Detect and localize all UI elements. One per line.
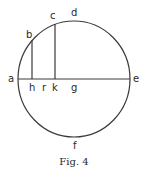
label-f: f [73, 140, 77, 151]
label-d: d [71, 7, 77, 18]
figure-4-diagram: a b c d e h r k g f Fig. 4 [0, 0, 144, 175]
label-h: h [29, 82, 35, 93]
label-g: g [71, 82, 77, 93]
label-b: b [26, 29, 32, 40]
label-k: k [52, 82, 58, 93]
figure-caption: Fig. 4 [59, 156, 88, 167]
label-r: r [42, 82, 47, 93]
label-e: e [133, 73, 139, 84]
label-c: c [50, 10, 56, 21]
label-a: a [8, 73, 14, 84]
